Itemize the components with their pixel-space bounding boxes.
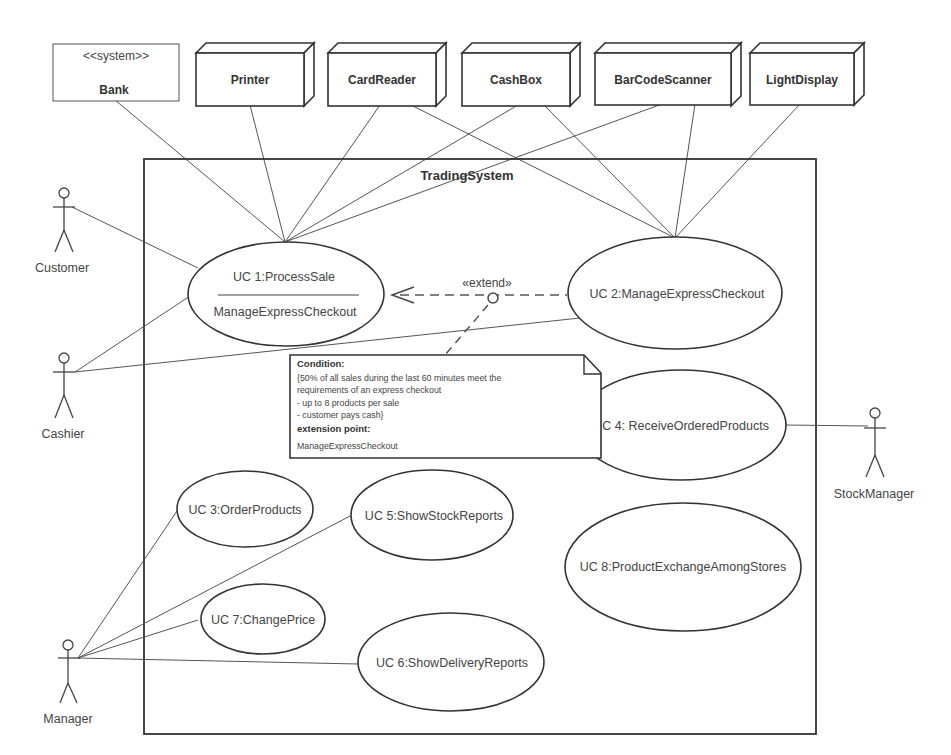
svg-text:- up to 8 products per sale: - up to 8 products per sale (297, 398, 399, 408)
svg-text:Condition:: Condition: (297, 358, 344, 369)
svg-text:LightDisplay: LightDisplay (766, 73, 838, 87)
extend-relationship: «extend» (392, 276, 567, 355)
node-cardreader[interactable]: CardReader (328, 43, 446, 106)
svg-text:UC 4: ReceiveOrderedProducts: UC 4: ReceiveOrderedProducts (593, 419, 769, 433)
extension-condition-note: Condition: {50% of all sales during the … (290, 355, 601, 458)
use-case-uc8[interactable]: UC 8:ProductExchangeAmongStores (565, 503, 801, 631)
use-case-uc2[interactable]: UC 2:ManageExpressCheckout (568, 237, 782, 349)
svg-text:ManageExpressCheckout: ManageExpressCheckout (297, 441, 398, 451)
svg-text:{50% of all sales during the l: {50% of all sales during the last 60 min… (297, 373, 502, 383)
svg-text:UC 8:ProductExchangeAmongStore: UC 8:ProductExchangeAmongStores (580, 560, 786, 574)
svg-text:BarCodeScanner: BarCodeScanner (614, 73, 712, 87)
use-case-uc4[interactable]: UC 4: ReceiveOrderedProducts (576, 370, 786, 480)
svg-text:Customer: Customer (35, 261, 89, 275)
system-bank[interactable]: <<system>> Printer Bank (53, 44, 179, 101)
svg-text:CardReader: CardReader (348, 73, 416, 87)
extend-label: «extend» (462, 276, 512, 290)
svg-text:UC 5:ShowStockReports: UC 5:ShowStockReports (365, 509, 503, 523)
svg-text:<<system>>: <<system>> (83, 49, 149, 63)
svg-text:Bank: Bank (99, 83, 129, 97)
use-case-uc3[interactable]: UC 3:OrderProducts (177, 471, 313, 547)
node-printer[interactable]: Printer (196, 43, 314, 106)
svg-text:Cashier: Cashier (41, 427, 84, 441)
svg-text:extension point:: extension point: (297, 423, 370, 434)
use-case-uc7[interactable]: UC 7:ChangePrice (201, 584, 325, 654)
svg-text:StockManager: StockManager (834, 487, 915, 501)
actor-customer[interactable]: Customer (35, 188, 89, 275)
system-title: TradingSystem (420, 168, 513, 183)
svg-text:ManageExpressCheckout: ManageExpressCheckout (213, 305, 357, 319)
use-case-uc5[interactable]: UC 5:ShowStockReports (351, 470, 513, 560)
svg-text:- customer pays cash}: - customer pays cash} (297, 410, 384, 420)
svg-text:CashBox: CashBox (490, 73, 542, 87)
use-case-uc1[interactable]: UC 1:ProcessSale ManageExpressCheckout (188, 242, 384, 346)
actor-cashier[interactable]: Cashier (41, 353, 84, 441)
use-case-uc6[interactable]: UC 6:ShowDeliveryReports (358, 613, 544, 711)
svg-text:UC 3:OrderProducts: UC 3:OrderProducts (188, 503, 301, 517)
svg-text:UC 1:ProcessSale: UC 1:ProcessSale (233, 270, 335, 284)
actor-stock-manager[interactable]: StockManager (834, 408, 915, 501)
svg-text:UC 2:ManageExpressCheckout: UC 2:ManageExpressCheckout (589, 287, 765, 301)
use-case-diagram: TradingSystem <<system>> Printer Bank Pr… (0, 0, 951, 755)
svg-text:UC 7:ChangePrice: UC 7:ChangePrice (211, 613, 315, 627)
node-cashbox[interactable]: CashBox (462, 43, 580, 106)
svg-text:Printer: Printer (231, 73, 270, 87)
svg-text:requirements of an express che: requirements of an express checkout (297, 385, 442, 395)
node-barcodescanner[interactable]: BarCodeScanner (595, 43, 741, 106)
node-lightdisplay[interactable]: LightDisplay (750, 43, 864, 105)
actor-manager[interactable]: Manager (43, 640, 92, 726)
svg-text:UC 6:ShowDeliveryReports: UC 6:ShowDeliveryReports (376, 656, 528, 670)
svg-text:Manager: Manager (43, 712, 92, 726)
